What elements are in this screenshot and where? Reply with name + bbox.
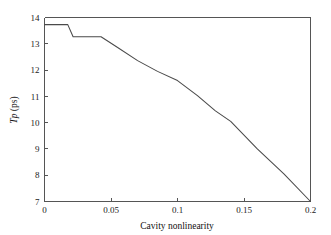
plot-frame — [45, 18, 311, 202]
x-axis-title: Cavity nonlinearity — [140, 221, 214, 231]
line-chart: 00.050.10.150.2 7891011121314 Cavity non… — [0, 0, 331, 235]
y-tick-label: 8 — [35, 170, 40, 180]
y-tick-label: 7 — [35, 197, 40, 207]
y-tick-label: 13 — [31, 39, 41, 49]
x-tick-label: 0.1 — [172, 205, 183, 215]
y-axis-title: Tp (ps) — [9, 96, 20, 123]
y-axis-tick-marks — [45, 18, 49, 202]
svg-text:Tp (ps): Tp (ps) — [9, 96, 20, 123]
y-tick-label: 11 — [31, 92, 40, 102]
y-axis-tick-labels: 7891011121314 — [31, 13, 41, 207]
y-tick-label: 14 — [31, 13, 41, 23]
y-tick-label: 9 — [35, 144, 40, 154]
x-axis-tick-marks — [45, 198, 311, 202]
x-axis-tick-labels: 00.050.10.150.2 — [42, 205, 316, 215]
data-series-group — [45, 25, 311, 202]
x-tick-label: 0.2 — [305, 205, 316, 215]
y-tick-label: 12 — [31, 65, 40, 75]
series-line-pulse-duration — [45, 25, 311, 202]
y-tick-label: 10 — [31, 118, 41, 128]
x-tick-label: 0.05 — [103, 205, 119, 215]
figure-container: 00.050.10.150.2 7891011121314 Cavity non… — [0, 0, 331, 235]
x-tick-label: 0.15 — [236, 205, 252, 215]
x-tick-label: 0 — [42, 205, 47, 215]
